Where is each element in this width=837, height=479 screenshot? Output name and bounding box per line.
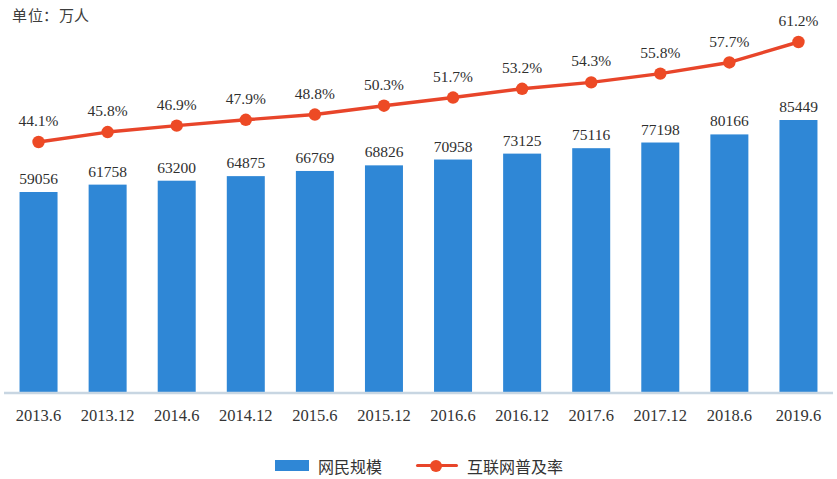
bar bbox=[296, 171, 334, 393]
line-marker bbox=[654, 67, 666, 79]
x-tick-label: 2013.12 bbox=[81, 406, 135, 426]
bar bbox=[710, 134, 748, 393]
bar-value-label: 66769 bbox=[296, 149, 335, 167]
chart-container: 单位：万人 5905661758632006487566769688267095… bbox=[0, 0, 837, 479]
legend-line-swatch-icon bbox=[416, 460, 458, 472]
bar-series bbox=[20, 120, 818, 393]
line-marker bbox=[516, 83, 528, 95]
bar bbox=[572, 148, 610, 393]
legend-item-line[interactable]: 互联网普及率 bbox=[416, 454, 563, 478]
line-marker bbox=[309, 108, 321, 120]
bar-value-label: 75116 bbox=[572, 126, 610, 144]
percent-value-label: 48.8% bbox=[295, 85, 335, 103]
bar bbox=[641, 143, 679, 393]
bar-value-label: 63200 bbox=[157, 159, 196, 177]
bar-value-label: 64875 bbox=[226, 154, 265, 172]
line-marker bbox=[101, 126, 113, 138]
x-tick-label: 2015.6 bbox=[292, 406, 337, 426]
bar bbox=[503, 154, 541, 393]
line-series bbox=[39, 42, 799, 142]
line-marker bbox=[378, 100, 390, 112]
bar bbox=[20, 192, 58, 393]
x-tick-label: 2017.6 bbox=[569, 406, 614, 426]
line-marker bbox=[585, 76, 597, 88]
percent-value-label: 57.7% bbox=[709, 33, 749, 51]
bar-value-label: 70958 bbox=[434, 138, 473, 156]
bar bbox=[779, 120, 817, 393]
percent-value-label: 61.2% bbox=[778, 12, 818, 30]
line-marker bbox=[32, 136, 44, 148]
bar-value-label: 73125 bbox=[503, 132, 542, 150]
legend: 网民规模 互联网普及率 bbox=[0, 452, 837, 479]
bar bbox=[227, 176, 265, 393]
line-marker bbox=[723, 56, 735, 68]
plot-area bbox=[0, 0, 837, 400]
bar bbox=[365, 165, 403, 393]
x-tick-label: 2013.6 bbox=[16, 406, 61, 426]
bar-value-label: 59056 bbox=[19, 170, 58, 188]
percent-value-label: 45.8% bbox=[88, 102, 128, 120]
percent-value-label: 53.2% bbox=[502, 59, 542, 77]
x-tick-label: 2017.12 bbox=[633, 406, 687, 426]
bar bbox=[434, 160, 472, 393]
percent-value-label: 54.3% bbox=[571, 52, 611, 70]
line-marker bbox=[171, 119, 183, 131]
bar bbox=[158, 181, 196, 393]
x-tick-label: 2016.6 bbox=[430, 406, 475, 426]
percent-value-label: 51.7% bbox=[433, 68, 473, 86]
bar-value-label: 85449 bbox=[779, 98, 818, 116]
legend-label-bar: 网民规模 bbox=[318, 454, 382, 478]
bar bbox=[89, 185, 127, 393]
bar-value-label: 80166 bbox=[710, 112, 749, 130]
percent-value-label: 44.1% bbox=[18, 112, 58, 130]
legend-label-line: 互联网普及率 bbox=[467, 454, 563, 478]
x-tick-label: 2015.12 bbox=[357, 406, 411, 426]
bar-value-label: 77198 bbox=[641, 121, 680, 139]
x-tick-label: 2019.6 bbox=[776, 406, 821, 426]
percent-value-label: 50.3% bbox=[364, 76, 404, 94]
x-axis-labels: 2013.62013.122014.62014.122015.62015.122… bbox=[0, 406, 837, 436]
x-tick-label: 2016.12 bbox=[495, 406, 549, 426]
bar-value-label: 68826 bbox=[365, 143, 404, 161]
percent-value-label: 46.9% bbox=[157, 96, 197, 114]
line-marker bbox=[792, 36, 804, 48]
x-tick-label: 2014.6 bbox=[154, 406, 199, 426]
line-marker bbox=[240, 114, 252, 126]
x-tick-label: 2014.12 bbox=[219, 406, 273, 426]
legend-bar-swatch-icon bbox=[275, 460, 309, 471]
x-tick-label: 2018.6 bbox=[707, 406, 752, 426]
percent-value-label: 55.8% bbox=[640, 44, 680, 62]
percent-value-label: 47.9% bbox=[226, 90, 266, 108]
line-path bbox=[39, 42, 799, 142]
legend-item-bar[interactable]: 网民规模 bbox=[275, 454, 382, 478]
bar-value-label: 61758 bbox=[88, 163, 127, 181]
line-marker bbox=[447, 91, 459, 103]
line-markers bbox=[32, 36, 804, 148]
